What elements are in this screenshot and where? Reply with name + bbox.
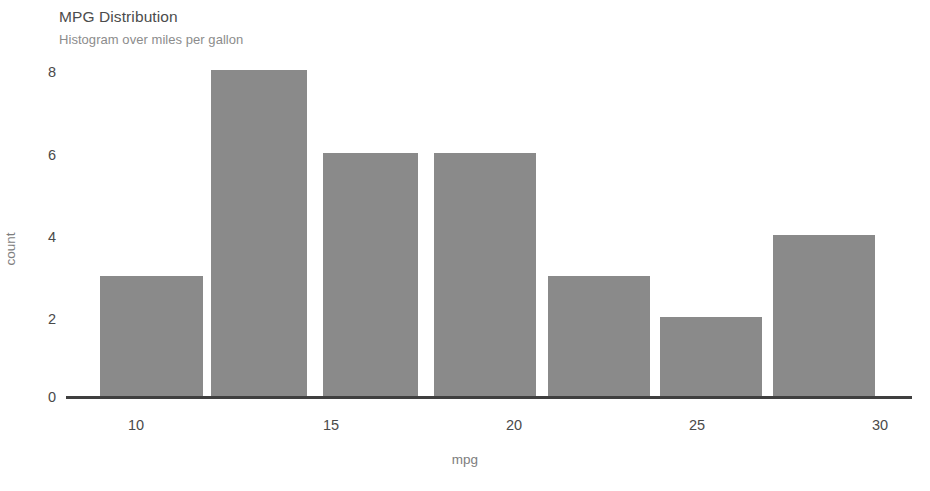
bar-bin-1 bbox=[100, 276, 203, 398]
bar-bin-4 bbox=[434, 153, 536, 398]
x-tick-label: 20 bbox=[506, 418, 522, 433]
x-tick-label: 30 bbox=[872, 418, 888, 433]
bar-bin-3 bbox=[323, 153, 418, 398]
bar-bin-6 bbox=[660, 317, 762, 398]
x-tick-label: 15 bbox=[323, 418, 339, 433]
x-axis-line bbox=[66, 396, 912, 399]
x-tick-label: 10 bbox=[128, 418, 144, 433]
bar-bin-2 bbox=[211, 70, 307, 398]
x-tick-label: 25 bbox=[689, 418, 705, 433]
histogram-figure: MPG Distribution Histogram over miles pe… bbox=[0, 0, 930, 491]
bars-layer bbox=[66, 58, 912, 398]
x-axis-label: mpg bbox=[0, 452, 930, 467]
plot-area bbox=[66, 58, 912, 398]
bar-bin-5 bbox=[548, 276, 650, 398]
bar-bin-7 bbox=[773, 235, 875, 398]
